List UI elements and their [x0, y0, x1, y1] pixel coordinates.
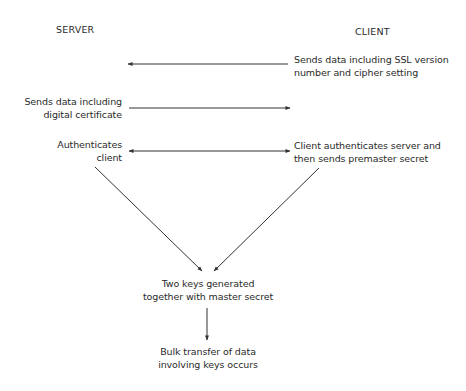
arrow-client-auth-to-keys [214, 168, 319, 271]
arrows-layer [0, 0, 466, 391]
arrow-server-auth-to-keys [95, 167, 202, 271]
